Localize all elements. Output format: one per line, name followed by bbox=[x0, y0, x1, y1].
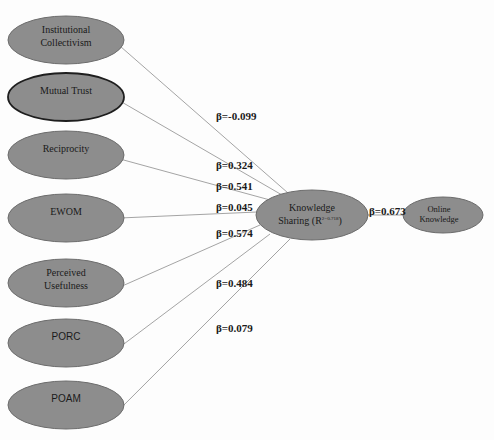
ewom-label-line: EWOM bbox=[50, 206, 82, 217]
diagram-svg: InstitutionalCollectivismMutual TrustRec… bbox=[0, 0, 494, 440]
knowledge-sharing-label-line1: Knowledge bbox=[289, 202, 336, 213]
online-knowledge-label-line: Knowledge bbox=[419, 214, 458, 224]
beta-label-perceived-usefulness: β=0.574 bbox=[216, 227, 253, 239]
edge-poam bbox=[120, 239, 290, 409]
node-ewom[interactable]: EWOM bbox=[8, 194, 124, 242]
node-online-knowledge[interactable]: OnlineKnowledge bbox=[403, 197, 483, 233]
node-poam[interactable]: POAM bbox=[8, 381, 124, 429]
perceived-usefulness-label-line: Perceived bbox=[46, 267, 85, 278]
node-mutual-trust[interactable]: Mutual Trust bbox=[8, 73, 124, 121]
perceived-usefulness-label-line: Usefulness bbox=[44, 280, 88, 291]
beta-label-poam: β=0.079 bbox=[216, 322, 253, 334]
porc-ellipse bbox=[8, 319, 124, 367]
ewom-ellipse bbox=[8, 194, 124, 242]
institutional-collectivism-label-line: Institutional bbox=[42, 24, 91, 35]
edge-institutional-collectivism bbox=[120, 46, 288, 193]
institutional-collectivism-label-line: Collectivism bbox=[40, 37, 91, 48]
reciprocity-label-line: Reciprocity bbox=[43, 143, 90, 154]
mutual-trust-ellipse bbox=[8, 73, 124, 121]
r-squared-suffix: ) bbox=[338, 215, 341, 227]
beta-label-mutual-trust: β=0.324 bbox=[216, 159, 253, 171]
beta-label-online-knowledge: β=0.673 bbox=[369, 205, 406, 217]
porc-label-line: PORC bbox=[52, 331, 81, 342]
nodes-group: InstitutionalCollectivismMutual TrustRec… bbox=[8, 16, 483, 429]
reciprocity-ellipse bbox=[8, 131, 124, 179]
node-knowledge-sharing[interactable]: KnowledgeSharing (R2=0.718) bbox=[256, 190, 368, 240]
node-perceived-usefulness[interactable]: PerceivedUsefulness bbox=[8, 259, 124, 307]
mutual-trust-label-line: Mutual Trust bbox=[40, 85, 92, 96]
path-model-diagram: InstitutionalCollectivismMutual TrustRec… bbox=[0, 0, 494, 440]
node-institutional-collectivism[interactable]: InstitutionalCollectivism bbox=[8, 16, 124, 64]
online-knowledge-label-line: Online bbox=[427, 204, 450, 214]
beta-label-institutional-collectivism: β=-0.099 bbox=[216, 110, 257, 122]
node-reciprocity[interactable]: Reciprocity bbox=[8, 131, 124, 179]
r-squared-value: 2=0.718 bbox=[322, 216, 339, 221]
poam-ellipse bbox=[8, 381, 124, 429]
beta-label-reciprocity: β=0.541 bbox=[216, 180, 253, 192]
beta-label-porc: β=0.484 bbox=[216, 277, 253, 289]
poam-label-line: POAM bbox=[51, 393, 80, 404]
beta-label-ewom: β=0.045 bbox=[216, 201, 253, 213]
node-porc[interactable]: PORC bbox=[8, 319, 124, 367]
r-squared-prefix: Sharing (R bbox=[278, 215, 322, 227]
